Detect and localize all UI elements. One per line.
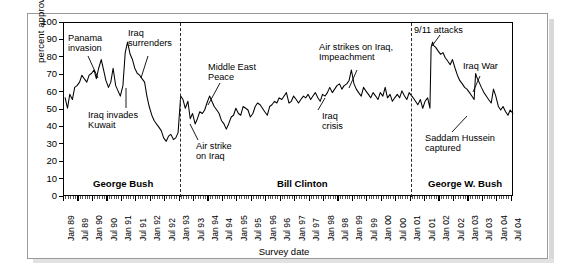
annotation-line-1: Iraq War bbox=[463, 61, 498, 71]
x-tick-label: Jul 99 bbox=[370, 218, 379, 241]
x-tick-minor bbox=[393, 196, 394, 199]
annotation-line-1: Iraq bbox=[128, 28, 172, 38]
x-tick-minor bbox=[508, 196, 509, 199]
x-tick-minor bbox=[292, 196, 293, 199]
x-tick-minor bbox=[128, 196, 129, 199]
x-tick-minor bbox=[489, 196, 490, 199]
x-tick-minor bbox=[448, 196, 449, 199]
x-tick-minor bbox=[398, 196, 399, 199]
x-tick-minor bbox=[400, 196, 401, 199]
x-tick-minor bbox=[388, 196, 389, 199]
x-tick-label: Jan 93 bbox=[182, 215, 191, 241]
x-tick-minor bbox=[152, 196, 153, 199]
x-tick-label: Jan 03 bbox=[471, 215, 480, 241]
x-tick-minor bbox=[68, 196, 69, 199]
y-tick-label: 60 bbox=[0, 87, 57, 97]
x-tick-minor bbox=[191, 196, 192, 199]
x-tick-label: Jan 01 bbox=[413, 215, 422, 241]
x-tick-minor bbox=[373, 196, 374, 199]
x-tick-label: Jan 90 bbox=[95, 215, 104, 241]
x-tick-minor bbox=[347, 196, 348, 199]
annotation-line-1: Saddam Hussein bbox=[425, 133, 495, 143]
x-tick-label: Jul 90 bbox=[110, 218, 119, 241]
annotation-line-2: Impeachment bbox=[319, 52, 393, 62]
x-tick-minor bbox=[484, 196, 485, 199]
x-tick-minor bbox=[198, 196, 199, 199]
x-tick-minor bbox=[215, 196, 216, 199]
x-tick-minor bbox=[506, 196, 507, 199]
x-tick-label: Jul 91 bbox=[139, 218, 148, 241]
x-tick-minor bbox=[203, 196, 204, 199]
x-tick-minor bbox=[429, 196, 430, 199]
annotation-panama-invasion: Panama invasion bbox=[68, 33, 102, 54]
annotation-saddam-hussein-captured: Saddam Hussein captured bbox=[425, 133, 495, 154]
x-tick-label: Jul 00 bbox=[399, 218, 408, 241]
x-tick-minor bbox=[253, 196, 254, 199]
y-tick-label: 70 bbox=[0, 69, 57, 79]
x-tick-minor bbox=[465, 196, 466, 199]
x-tick-minor bbox=[330, 196, 331, 199]
x-tick-minor bbox=[123, 196, 124, 199]
era-divider-clinton-bush43 bbox=[411, 23, 412, 197]
x-tick-minor bbox=[82, 196, 83, 199]
x-tick-minor bbox=[354, 196, 355, 199]
x-tick-minor bbox=[296, 196, 297, 199]
x-tick-minor bbox=[383, 196, 384, 199]
x-tick-minor bbox=[109, 196, 110, 199]
x-tick-label: Jul 01 bbox=[428, 218, 437, 241]
y-tick-label: 20 bbox=[0, 156, 57, 166]
annotation-iraq-invades-kuwait: Iraq invades Kuwait bbox=[88, 110, 138, 131]
annotation-line-2: Kuwait bbox=[88, 120, 138, 130]
x-tick-label: Jul 94 bbox=[225, 218, 234, 241]
x-tick-minor bbox=[301, 196, 302, 199]
x-axis-labels: Jan 89Jul 89Jan 90Jul 90Jan 91Jul 91Jan … bbox=[0, 201, 568, 247]
x-tick-minor bbox=[246, 196, 247, 199]
x-tick-minor bbox=[75, 196, 76, 199]
annotation-line-2: on Iraq bbox=[196, 151, 232, 161]
x-tick-minor bbox=[118, 196, 119, 199]
x-tick-minor bbox=[104, 196, 105, 199]
x-tick-minor bbox=[460, 196, 461, 199]
x-tick-minor bbox=[94, 196, 95, 199]
x-tick-minor bbox=[316, 196, 317, 199]
x-tick-label: Jul 97 bbox=[312, 218, 321, 241]
x-tick-minor bbox=[87, 196, 88, 199]
x-tick-minor bbox=[73, 196, 74, 199]
x-tick-minor bbox=[419, 196, 420, 199]
x-tick-label: Jul 89 bbox=[81, 218, 90, 241]
annotation-air-strikes-impeachment: Air strikes on Iraq, Impeachment bbox=[319, 42, 393, 63]
x-tick-minor bbox=[311, 196, 312, 199]
x-tick-label: Jan 96 bbox=[269, 215, 278, 241]
x-tick-label: Jan 91 bbox=[124, 215, 133, 241]
x-tick-minor bbox=[369, 196, 370, 199]
x-tick-minor bbox=[195, 196, 196, 199]
x-tick-minor bbox=[219, 196, 220, 199]
x-tick-minor bbox=[390, 196, 391, 199]
x-tick-minor bbox=[229, 196, 230, 199]
x-tick-minor bbox=[386, 196, 387, 199]
annotation-iraq-crisis: Iraq crisis bbox=[322, 111, 343, 132]
x-tick-minor bbox=[287, 196, 288, 199]
x-tick-minor bbox=[441, 196, 442, 199]
x-tick-minor bbox=[157, 196, 158, 199]
x-tick-minor bbox=[378, 196, 379, 199]
annotation-line-1: Iraq invades bbox=[88, 110, 138, 120]
x-tick-label: Jul 02 bbox=[457, 218, 466, 241]
x-tick-minor bbox=[284, 196, 285, 199]
x-tick-minor bbox=[431, 196, 432, 199]
x-tick-minor bbox=[159, 196, 160, 199]
x-tick-label: Jan 00 bbox=[384, 215, 393, 241]
x-tick-label: Jul 95 bbox=[254, 218, 263, 241]
x-tick-minor bbox=[501, 196, 502, 199]
x-tick-minor bbox=[272, 196, 273, 199]
x-tick-label: Jan 99 bbox=[355, 215, 364, 241]
x-tick-minor bbox=[345, 196, 346, 199]
x-tick-minor bbox=[142, 196, 143, 199]
x-tick-minor bbox=[188, 196, 189, 199]
era-divider-bush41-clinton bbox=[180, 23, 181, 197]
x-tick-minor bbox=[227, 196, 228, 199]
x-tick-minor bbox=[499, 196, 500, 199]
x-tick-minor bbox=[451, 196, 452, 199]
x-tick-minor bbox=[239, 196, 240, 199]
x-tick-minor bbox=[477, 196, 478, 199]
